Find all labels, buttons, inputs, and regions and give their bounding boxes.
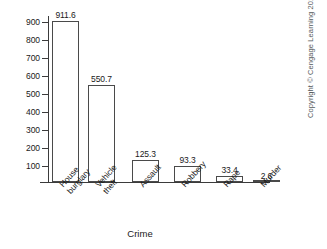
bar-value-label: 550.7 bbox=[81, 75, 122, 84]
y-tick-label: 700 bbox=[26, 54, 40, 63]
y-tick-label: 300 bbox=[26, 126, 40, 135]
bars-layer: 911.6 550.7 125.3 93.3 33.4 2.6 bbox=[48, 14, 278, 182]
y-tick-label: 900 bbox=[26, 18, 40, 27]
y-tick-label: 200 bbox=[26, 144, 40, 153]
y-tick-label: 800 bbox=[26, 36, 40, 45]
bar-house-burglary bbox=[52, 21, 79, 182]
y-tick-label: 500 bbox=[26, 90, 40, 99]
bar-value-label: 911.6 bbox=[45, 11, 86, 20]
x-axis-category-labels: House burglary Vehicle theft Assault Rob… bbox=[0, 183, 327, 233]
y-tick-label: 400 bbox=[26, 108, 40, 117]
y-tick-label: 600 bbox=[26, 72, 40, 81]
x-axis-title: Crime bbox=[0, 228, 280, 239]
bar-chart: 900 800 700 600 500 400 300 200 100 911.… bbox=[0, 0, 327, 249]
y-tick-label: 100 bbox=[26, 162, 40, 171]
bar-value-label: 125.3 bbox=[125, 150, 166, 159]
copyright-notice: Copyright © Cengage Learning 2013 bbox=[307, 0, 315, 118]
